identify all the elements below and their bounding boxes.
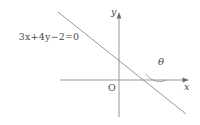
- y-axis-label: y: [111, 6, 116, 17]
- line-equation-text: 3x+4y−2=0: [19, 31, 80, 42]
- line-3x-plus-4y-minus-2: [58, 12, 186, 114]
- origin-label: O: [108, 82, 116, 93]
- line-equation-label: 3x+4y−2=0: [10, 31, 88, 42]
- angle-theta-label: θ: [158, 56, 164, 67]
- coordinate-geometry-figure: [0, 0, 200, 125]
- x-axis-label: x: [184, 81, 189, 92]
- y-axis-arrowhead: [117, 12, 122, 19]
